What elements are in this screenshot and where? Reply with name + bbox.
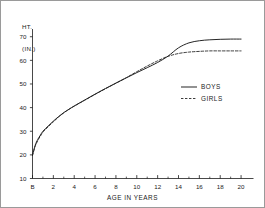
x-tick-label: 20 xyxy=(234,183,248,190)
legend-label-boys: BOYS xyxy=(201,83,221,90)
x-axis-title: AGE IN YEARS xyxy=(1,194,264,201)
y-tick-label: 30 xyxy=(11,128,27,135)
x-tick-label: B xyxy=(26,183,40,190)
y-tick-label: 20 xyxy=(11,151,27,158)
x-tick-label: 16 xyxy=(192,183,206,190)
y-tick-label: 50 xyxy=(11,80,27,87)
legend-label-girls: GIRLS xyxy=(201,95,223,102)
y-tick-label: 60 xyxy=(11,57,27,64)
x-tick-label: 18 xyxy=(213,183,227,190)
y-tick-label: 70 xyxy=(11,33,27,40)
x-tick-label: 8 xyxy=(109,183,123,190)
x-tick-label: 12 xyxy=(151,183,165,190)
x-tick-label: 4 xyxy=(67,183,81,190)
x-tick-label: 10 xyxy=(130,183,144,190)
y-tick-label: 40 xyxy=(11,104,27,111)
x-tick-label: 14 xyxy=(172,183,186,190)
axes xyxy=(30,29,254,179)
y-tick-label: 10 xyxy=(11,175,27,182)
series-line-girls xyxy=(33,51,242,156)
x-tick-label: 6 xyxy=(88,183,102,190)
legend-swatches xyxy=(181,87,197,99)
plot-area xyxy=(1,1,265,208)
growth-chart-figure: HT. (IN.) 10203040506070 B24681012141618… xyxy=(0,0,265,208)
x-tick-label: 2 xyxy=(46,183,60,190)
